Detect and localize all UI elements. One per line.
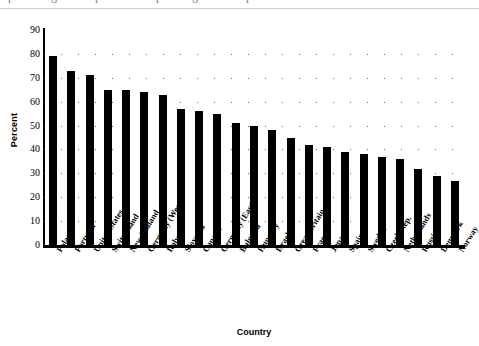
bar <box>86 75 94 245</box>
y-tick-label: 40 <box>2 144 40 154</box>
bar-series <box>44 30 464 245</box>
y-tick-label: 70 <box>2 73 40 83</box>
bar-slot <box>62 30 80 245</box>
y-tick-label: 10 <box>2 216 40 226</box>
y-tick-label: 0 <box>2 240 40 250</box>
bar-slot <box>263 30 281 245</box>
cropped-title-text: percentage of respondents expressing nat… <box>8 0 272 4</box>
plot-area: 0102030405060708090 <box>44 30 464 245</box>
bar <box>67 71 75 245</box>
bar-slot <box>44 30 62 245</box>
y-tick-label: 80 <box>2 49 40 59</box>
bar-slot <box>427 30 445 245</box>
bar-slot <box>373 30 391 245</box>
x-axis-tick-labels: PolandPortugalUnited StatesSwitzerlandNe… <box>44 249 464 319</box>
title-divider <box>0 8 479 9</box>
bar <box>177 109 185 245</box>
bar <box>287 138 295 246</box>
bar-slot <box>354 30 372 245</box>
bar <box>49 56 57 245</box>
bar-slot <box>446 30 464 245</box>
bar-slot <box>81 30 99 245</box>
y-tick-label: 90 <box>2 25 40 35</box>
bar-slot <box>190 30 208 245</box>
chart-page: percentage of respondents expressing nat… <box>0 0 479 346</box>
y-tick-label: 60 <box>2 97 40 107</box>
bar-slot <box>208 30 226 245</box>
bar-slot <box>391 30 409 245</box>
y-tick-label: 20 <box>2 192 40 202</box>
x-axis-title: Country <box>44 327 464 337</box>
bar <box>360 154 368 245</box>
bar-slot <box>281 30 299 245</box>
y-tick-label: 30 <box>2 168 40 178</box>
y-tick-label: 50 <box>2 121 40 131</box>
bar-slot <box>336 30 354 245</box>
